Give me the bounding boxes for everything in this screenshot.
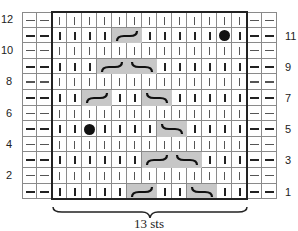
chart-cell xyxy=(22,74,37,90)
purl-symbol xyxy=(26,50,35,51)
purl-symbol xyxy=(250,50,259,51)
purl-symbol xyxy=(40,191,49,193)
purl-symbol xyxy=(40,144,49,145)
chart-cell xyxy=(37,137,52,153)
purl-symbol xyxy=(265,159,274,161)
chart-cell xyxy=(37,43,52,59)
row-number-left: 10 xyxy=(1,44,13,56)
row-number-right: 5 xyxy=(285,123,291,135)
chart-cell xyxy=(262,12,277,28)
chart-cell xyxy=(22,59,37,75)
chart-cell xyxy=(22,106,37,122)
row-number-right: 11 xyxy=(285,30,296,42)
purl-symbol xyxy=(26,81,35,82)
chart-cell xyxy=(262,28,277,44)
purl-symbol xyxy=(40,50,49,51)
chart-cell xyxy=(22,43,37,59)
purl-symbol xyxy=(40,128,49,130)
purl-symbol xyxy=(250,20,259,21)
chart-cell xyxy=(37,184,52,200)
purl-symbol xyxy=(40,159,49,161)
purl-symbol xyxy=(26,128,35,130)
chart-cell xyxy=(247,106,262,122)
chart-cell xyxy=(262,59,277,75)
row-number-right: 9 xyxy=(285,61,291,73)
chart-cell xyxy=(37,106,52,122)
repeat-label: 13 sts xyxy=(0,216,298,231)
purl-symbol xyxy=(265,20,274,21)
purl-symbol xyxy=(250,128,259,130)
chart-cell xyxy=(37,152,52,168)
chart-cell xyxy=(262,121,277,137)
purl-symbol xyxy=(26,113,35,114)
purl-symbol xyxy=(265,113,274,114)
chart-cell xyxy=(247,43,262,59)
chart-cell xyxy=(247,152,262,168)
purl-symbol xyxy=(40,97,49,99)
row-number-right: 3 xyxy=(285,154,291,166)
chart-cell xyxy=(247,121,262,137)
purl-symbol xyxy=(265,50,274,51)
chart-cell xyxy=(247,168,262,184)
chart-cell xyxy=(22,121,37,137)
purl-symbol xyxy=(40,81,49,82)
purl-symbol xyxy=(265,81,274,82)
chart-cell xyxy=(247,184,262,200)
row-number-left: 4 xyxy=(6,138,12,150)
chart-cell xyxy=(22,168,37,184)
chart-cell xyxy=(262,184,277,200)
row-number-left: 8 xyxy=(6,75,12,87)
purl-symbol xyxy=(265,128,274,130)
chart-cell xyxy=(262,106,277,122)
purl-symbol xyxy=(250,144,259,145)
chart-cell xyxy=(262,152,277,168)
chart-cell xyxy=(262,90,277,106)
purl-symbol xyxy=(250,81,259,82)
chart-cell xyxy=(262,43,277,59)
row-number-right: 7 xyxy=(285,92,291,104)
purl-symbol xyxy=(265,144,274,145)
chart-cell xyxy=(247,137,262,153)
row-number-left: 12 xyxy=(1,13,13,25)
chart-cell xyxy=(37,74,52,90)
purl-symbol xyxy=(250,113,259,114)
row-number-left: 2 xyxy=(6,169,12,181)
chart-cell xyxy=(22,152,37,168)
chart-cell xyxy=(262,74,277,90)
chart-cell xyxy=(247,12,262,28)
chart-cell xyxy=(22,12,37,28)
chart-cell xyxy=(37,90,52,106)
purl-symbol xyxy=(40,20,49,21)
purl-symbol xyxy=(265,66,274,68)
purl-symbol xyxy=(250,97,259,99)
purl-symbol xyxy=(26,97,35,99)
purl-symbol xyxy=(265,191,274,193)
purl-symbol xyxy=(26,20,35,21)
purl-symbol xyxy=(265,175,274,176)
purl-symbol xyxy=(26,191,35,193)
purl-symbol xyxy=(250,175,259,176)
purl-symbol xyxy=(265,97,274,99)
purl-symbol xyxy=(26,66,35,68)
purl-symbol xyxy=(250,191,259,193)
purl-symbol xyxy=(26,175,35,176)
purl-symbol xyxy=(26,159,35,161)
purl-symbol xyxy=(26,35,35,37)
purl-symbol xyxy=(40,35,49,37)
chart-cell xyxy=(247,28,262,44)
chart-cell xyxy=(262,137,277,153)
chart-cell xyxy=(262,168,277,184)
row-number-right: 1 xyxy=(285,186,291,198)
chart-cell xyxy=(37,121,52,137)
purl-symbol xyxy=(250,35,259,37)
chart-cell xyxy=(22,28,37,44)
chart-cell xyxy=(37,28,52,44)
purl-symbol xyxy=(250,66,259,68)
purl-symbol xyxy=(250,159,259,161)
chart-cell xyxy=(247,74,262,90)
purl-symbol xyxy=(40,175,49,176)
chart-cell xyxy=(37,59,52,75)
chart-cell xyxy=(22,184,37,200)
chart-cell xyxy=(37,168,52,184)
repeat-box xyxy=(51,11,248,200)
